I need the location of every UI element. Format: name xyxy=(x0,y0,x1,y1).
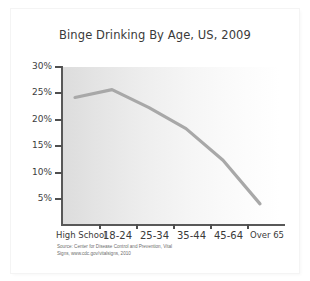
y-tick-mark xyxy=(55,145,62,147)
source-note-line-1: Source: Center for Disease Control and P… xyxy=(57,243,247,250)
y-tick-mark xyxy=(55,92,62,94)
chart-title: Binge Drinking By Age, US, 2009 xyxy=(0,28,310,42)
y-tick-mark xyxy=(55,198,62,200)
y-tick-mark xyxy=(55,172,62,174)
y-tick-label: 10% xyxy=(22,167,52,177)
y-tick-mark xyxy=(55,66,62,68)
x-tick-label-35-44: 35-44 xyxy=(173,230,210,241)
y-tick-mark xyxy=(55,119,62,121)
y-tick-label: 20% xyxy=(22,114,52,124)
source-note: Source: Center for Disease Control and P… xyxy=(57,243,247,257)
data-series-line xyxy=(62,67,280,225)
x-tick-label-18-24: 18-24 xyxy=(99,230,136,241)
y-tick-label: 15% xyxy=(22,140,52,150)
y-tick-label: 30% xyxy=(22,61,52,71)
source-note-line-2: Signs, www.cdc.gov/vitalsigns, 2010 xyxy=(57,250,247,257)
y-tick-label: 5% xyxy=(22,193,52,203)
chart-figure: Binge Drinking By Age, US, 2009 30% 25% … xyxy=(0,0,310,281)
y-tick-label: 25% xyxy=(22,87,52,97)
x-tick-label-over-65: Over 65 xyxy=(247,230,287,240)
x-tick-label-45-64: 45-64 xyxy=(210,230,247,241)
x-tick-label-25-34: 25-34 xyxy=(136,230,173,241)
x-tick-label-high-school: High School xyxy=(56,230,104,240)
